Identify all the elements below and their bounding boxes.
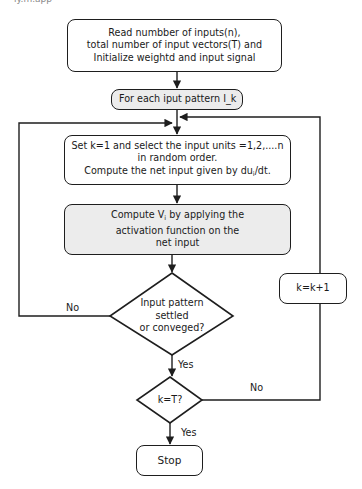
init-line-2: total number of input vectors(T) and [87, 39, 262, 51]
set-k-line-2: in random order. [138, 152, 218, 164]
label-settled-no: No [66, 302, 79, 314]
compute-v-line-1: Compute Vi by applying the [111, 209, 244, 224]
increment-node: k=k+1 [279, 273, 347, 304]
compute-v-line-3: net input [156, 237, 199, 249]
stop-label: Stop [158, 454, 182, 466]
stop-node: Stop [136, 445, 203, 476]
decision-settled-label: Input pattern settled or conveged? [120, 296, 224, 336]
set-k-node: Set k=1 and select the input units =1,2,… [64, 135, 291, 185]
label-settled-yes: Yes [178, 359, 194, 371]
set-k-line-1: Set k=1 and select the input units =1,2,… [72, 140, 284, 152]
for-each-node: For each iput pattern I_k [111, 89, 243, 110]
decision-kt-label: k=T? [145, 393, 195, 407]
increment-label: k=k+1 [296, 282, 329, 294]
label-kt-no: No [250, 382, 263, 394]
init-node: Read numbber of inputs(n), total number … [67, 19, 282, 72]
label-kt-yes: Yes [181, 427, 197, 439]
init-line-1: Read numbber of inputs(n), [108, 27, 240, 39]
for-each-label: For each iput pattern I_k [119, 93, 236, 105]
compute-v-node: Compute Vi by applying the activation fu… [64, 204, 291, 255]
init-line-3: Initialize weightd and input signal [94, 52, 256, 64]
flowchart-canvas: ly.m.app [0, 0, 362, 489]
compute-v-line-2: activation function on the [116, 225, 240, 237]
set-k-line-3: Compute the net input given by dui/dt. [84, 165, 271, 180]
